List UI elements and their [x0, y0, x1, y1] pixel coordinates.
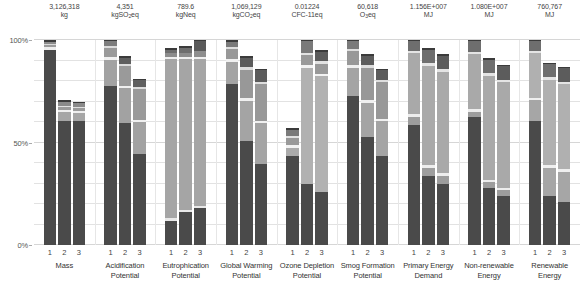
stacked-bar[interactable]	[286, 128, 299, 245]
stacked-bar[interactable]	[104, 40, 117, 245]
bar-segment[interactable]	[361, 137, 374, 245]
bar-segment[interactable]	[376, 156, 389, 245]
bar-segment[interactable]	[529, 53, 542, 98]
stacked-bar[interactable]	[226, 40, 239, 245]
bar-segment[interactable]	[408, 41, 421, 50]
stacked-bar[interactable]	[179, 46, 192, 245]
bar-segment[interactable]	[179, 212, 192, 245]
bar-segment[interactable]	[543, 168, 556, 196]
bar-segment[interactable]	[301, 68, 314, 184]
bar-segment[interactable]	[347, 96, 360, 245]
bar-segment[interactable]	[558, 68, 571, 81]
bar-segment[interactable]	[165, 59, 178, 218]
bar-segment[interactable]	[497, 82, 510, 188]
bar-segment[interactable]	[58, 121, 71, 245]
bar-segment[interactable]	[422, 168, 435, 176]
bar-segment[interactable]	[529, 121, 542, 245]
bar-segment[interactable]	[422, 66, 435, 166]
bar-segment[interactable]	[437, 176, 450, 184]
stacked-bar[interactable]	[73, 102, 86, 246]
bar-segment[interactable]	[286, 130, 299, 137]
stacked-bar[interactable]	[58, 100, 71, 245]
bar-segment[interactable]	[301, 184, 314, 245]
stacked-bar[interactable]	[133, 79, 146, 245]
bar-segment[interactable]	[376, 121, 389, 156]
bar-segment[interactable]	[437, 184, 450, 245]
bar-segment[interactable]	[529, 100, 542, 120]
bar-segment[interactable]	[437, 72, 450, 174]
bar-segment[interactable]	[408, 117, 421, 125]
bar-segment[interactable]	[104, 86, 117, 245]
bar-segment[interactable]	[286, 156, 299, 245]
bar-segment[interactable]	[315, 192, 328, 245]
bar-segment[interactable]	[558, 202, 571, 245]
bar-segment[interactable]	[119, 66, 132, 86]
bar-segment[interactable]	[361, 68, 374, 101]
bar-segment[interactable]	[301, 55, 314, 65]
bar-segment[interactable]	[315, 76, 328, 192]
bar-segment[interactable]	[44, 50, 57, 245]
bar-segment[interactable]	[422, 50, 435, 63]
bar-segment[interactable]	[497, 196, 510, 245]
bar-segment[interactable]	[361, 103, 374, 138]
bar-segment[interactable]	[422, 176, 435, 245]
bar-segment[interactable]	[119, 123, 132, 245]
bar-segment[interactable]	[226, 49, 239, 59]
bar-segment[interactable]	[483, 188, 496, 245]
stacked-bar[interactable]	[483, 58, 496, 245]
bar-segment[interactable]	[58, 112, 71, 121]
bar-segment[interactable]	[194, 59, 207, 206]
bar-segment[interactable]	[483, 60, 496, 73]
bar-segment[interactable]	[226, 62, 239, 84]
stacked-bar[interactable]	[194, 40, 207, 245]
bar-segment[interactable]	[240, 141, 253, 245]
bar-segment[interactable]	[119, 88, 132, 123]
bar-segment[interactable]	[104, 60, 117, 86]
bar-segment[interactable]	[240, 101, 253, 142]
bar-segment[interactable]	[437, 56, 450, 69]
bar-segment[interactable]	[483, 76, 496, 180]
bar-segment[interactable]	[468, 117, 481, 245]
bar-segment[interactable]	[73, 113, 86, 122]
bar-segment[interactable]	[347, 51, 360, 65]
bar-segment[interactable]	[240, 70, 253, 98]
stacked-bar[interactable]	[497, 65, 510, 245]
bar-segment[interactable]	[543, 80, 556, 165]
bar-segment[interactable]	[73, 121, 86, 245]
bar-segment[interactable]	[255, 123, 268, 164]
stacked-bar[interactable]	[422, 48, 435, 245]
stacked-bar[interactable]	[361, 54, 374, 245]
bar-segment[interactable]	[165, 221, 178, 245]
stacked-bar[interactable]	[437, 54, 450, 245]
bar-segment[interactable]	[286, 148, 299, 156]
bar-segment[interactable]	[133, 154, 146, 245]
stacked-bar[interactable]	[255, 69, 268, 245]
bar-segment[interactable]	[543, 196, 556, 245]
bar-segment[interactable]	[408, 125, 421, 245]
bar-segment[interactable]	[301, 41, 314, 52]
bar-segment[interactable]	[347, 41, 360, 49]
bar-segment[interactable]	[408, 53, 421, 114]
bar-segment[interactable]	[255, 70, 268, 81]
bar-segment[interactable]	[133, 122, 146, 154]
bar-segment[interactable]	[133, 80, 146, 87]
bar-segment[interactable]	[558, 172, 571, 202]
stacked-bar[interactable]	[165, 48, 178, 245]
bar-segment[interactable]	[543, 64, 556, 77]
bar-segment[interactable]	[286, 138, 299, 145]
stacked-bar[interactable]	[558, 67, 571, 245]
bar-segment[interactable]	[240, 58, 253, 67]
bar-segment[interactable]	[376, 82, 389, 119]
bar-segment[interactable]	[104, 48, 117, 57]
stacked-bar[interactable]	[347, 40, 360, 245]
bar-segment[interactable]	[529, 41, 542, 50]
stacked-bar[interactable]	[315, 50, 328, 245]
bar-segment[interactable]	[347, 68, 360, 96]
stacked-bar[interactable]	[376, 69, 389, 245]
bar-segment[interactable]	[376, 70, 389, 79]
stacked-bar[interactable]	[301, 40, 314, 245]
bar-segment[interactable]	[468, 54, 481, 109]
bar-segment[interactable]	[558, 84, 571, 169]
stacked-bar[interactable]	[44, 40, 57, 245]
bar-segment[interactable]	[255, 164, 268, 245]
